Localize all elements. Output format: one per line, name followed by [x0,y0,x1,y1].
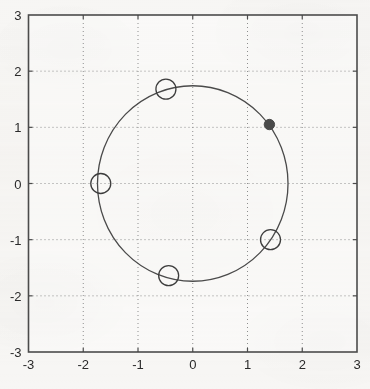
marker-filled-dot [264,119,274,129]
x-tick-label: -1 [132,357,144,372]
x-tick-label: 0 [189,357,196,372]
x-tick-label: 1 [244,357,251,372]
y-tick-label: -3 [10,345,22,360]
x-tick-label: 3 [353,357,360,372]
y-tick-label: 1 [14,120,21,135]
y-tick-label: 2 [14,64,21,79]
x-tick-label: -3 [23,357,35,372]
y-tick-label: 3 [14,8,21,23]
figure-root: -3-2-101233210-1-2-3 [0,0,370,389]
y-tick-label: 0 [14,177,21,192]
scatter-plot: -3-2-101233210-1-2-3 [0,0,370,389]
y-tick-label: -2 [10,289,22,304]
y-tick-label: -1 [10,233,22,248]
x-tick-label: 2 [299,357,306,372]
x-tick-label: -2 [77,357,89,372]
